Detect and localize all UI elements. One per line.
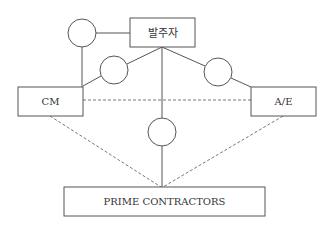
edge-owner-left-circle <box>127 47 162 64</box>
node-owner-label: 발주자 <box>148 27 178 40</box>
edge-cm-prime-dashed <box>50 116 161 187</box>
contract-circle-right <box>204 58 232 86</box>
contract-circle-bottom <box>148 118 176 146</box>
edge-right-circle-ae <box>231 78 251 87</box>
edge-owner-right-circle <box>162 47 205 66</box>
node-prime-contractors: PRIME CONTRACTORS <box>64 187 265 216</box>
node-owner: 발주자 <box>130 18 195 47</box>
node-cm-label: CM <box>42 96 60 107</box>
contract-circle-top-left <box>68 19 96 47</box>
node-ae-label: A/E <box>274 96 293 107</box>
edge-left-circle-cm <box>83 76 101 86</box>
node-cm: CM <box>18 87 83 116</box>
contract-circle-left <box>100 56 128 84</box>
edge-ae-prime-dashed <box>163 116 283 187</box>
node-prime-label: PRIME CONTRACTORS <box>104 196 226 207</box>
diagram-canvas: 발주자 CM A/E PRIME CONTRACTORS <box>0 0 330 228</box>
node-ae: A/E <box>251 87 316 116</box>
